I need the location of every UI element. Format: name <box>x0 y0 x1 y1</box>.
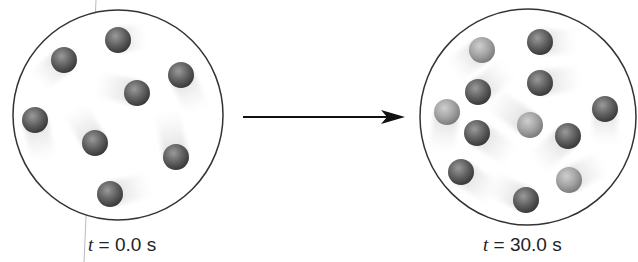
gas-particle <box>527 29 553 55</box>
gas-particle <box>592 96 618 122</box>
gas-particle <box>434 99 460 125</box>
container-t30 <box>420 9 636 225</box>
gas-particle <box>105 27 131 53</box>
gas-particle <box>82 130 108 156</box>
diagram-canvas <box>0 0 638 262</box>
gas-particle <box>517 112 543 138</box>
time-label-left: t = 0.0 s <box>88 234 156 256</box>
gas-particle <box>555 123 581 149</box>
gas-particle <box>469 37 495 63</box>
gas-particle <box>163 144 189 170</box>
arrow-icon <box>243 110 405 124</box>
time-label-right: t = 30.0 s <box>483 234 562 256</box>
gas-particle <box>97 181 123 207</box>
container-t0 <box>13 10 223 220</box>
gas-particle <box>465 79 491 105</box>
gas-particle <box>448 159 474 185</box>
time-value: = 0.0 s <box>93 234 156 255</box>
gas-particle <box>513 187 539 213</box>
gas-particle <box>527 70 553 96</box>
gas-particle <box>124 80 150 106</box>
time-value: = 30.0 s <box>488 234 561 255</box>
gas-particle <box>464 120 490 146</box>
gas-particle <box>51 47 77 73</box>
gas-particle <box>22 107 48 133</box>
gas-particle <box>556 167 582 193</box>
gas-particle <box>168 62 194 88</box>
